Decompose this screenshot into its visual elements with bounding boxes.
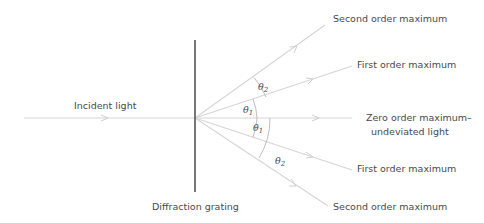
zero-order-label-line1: Zero order maximum– — [366, 112, 472, 123]
first-order-lower-ray — [195, 118, 352, 170]
second-order-lower-label: Second order maximum — [333, 201, 447, 212]
second-order-upper-label: Second order maximum — [333, 13, 447, 24]
incident-light-label: Incident light — [74, 100, 137, 111]
theta2-upper-label: θ2 — [258, 81, 269, 94]
first-order-lower-label: First order maximum — [357, 163, 456, 174]
theta1-upper-label: θ1 — [243, 104, 253, 117]
second-order-upper-ray — [195, 25, 325, 118]
first-order-upper-ray — [195, 66, 352, 118]
zero-order-label-line2: undeviated light — [371, 126, 449, 137]
diffraction-grating-label: Diffraction grating — [152, 201, 239, 212]
diffraction-diagram: θ2 θ1 θ1 θ2 Incident light Diffraction g… — [0, 0, 484, 223]
first-order-upper-label: First order maximum — [357, 59, 456, 70]
theta1-upper-arc — [253, 99, 257, 118]
theta2-lower-label: θ2 — [275, 155, 286, 168]
theta2-lower-arc — [259, 118, 270, 158]
